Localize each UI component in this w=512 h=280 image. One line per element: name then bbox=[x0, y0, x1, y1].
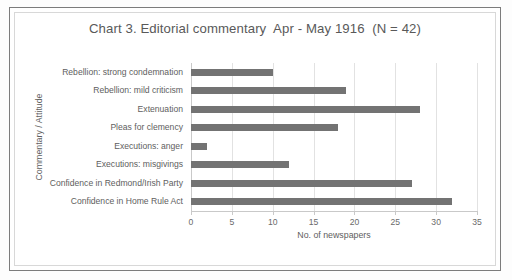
x-tick-mark bbox=[395, 211, 396, 215]
category-label-row: Pleas for clemency bbox=[52, 119, 187, 138]
bar[interactable] bbox=[191, 69, 273, 76]
x-tick-label: 30 bbox=[431, 217, 441, 227]
bar[interactable] bbox=[191, 143, 207, 150]
chart-screenshot: Chart 3. Editorial commentary Apr - May … bbox=[0, 0, 512, 280]
gridline-35 bbox=[477, 63, 478, 211]
bar[interactable] bbox=[191, 198, 452, 205]
chart-title: Chart 3. Editorial commentary Apr - May … bbox=[14, 21, 496, 36]
x-tick-mark bbox=[477, 211, 478, 215]
bar-row[interactable] bbox=[191, 100, 477, 119]
x-axis-title: No. of newspapers bbox=[191, 230, 477, 240]
category-label: Rebellion: mild criticism bbox=[93, 86, 187, 95]
x-axis-ticks: 05101520253035 bbox=[191, 211, 477, 227]
bar-row[interactable] bbox=[191, 174, 477, 193]
x-tick-label: 5 bbox=[229, 217, 234, 227]
x-tick-label: 25 bbox=[391, 217, 401, 227]
x-tick-label: 20 bbox=[350, 217, 360, 227]
x-tick-mark bbox=[232, 211, 233, 215]
x-tick-label: 0 bbox=[189, 217, 194, 227]
bar-row[interactable] bbox=[191, 63, 477, 82]
y-axis-category-labels: Rebellion: strong condemnationRebellion:… bbox=[52, 63, 187, 211]
x-tick-label: 15 bbox=[309, 217, 319, 227]
category-label: Confidence in Redmond/Irish Party bbox=[50, 179, 187, 188]
bar[interactable] bbox=[191, 161, 289, 168]
bar-row[interactable] bbox=[191, 119, 477, 138]
category-label-row: Confidence in Home Rule Act bbox=[52, 193, 187, 212]
category-label-row: Confidence in Redmond/Irish Party bbox=[52, 174, 187, 193]
category-label: Rebellion: strong condemnation bbox=[62, 68, 187, 77]
bar[interactable] bbox=[191, 124, 338, 131]
category-label: Extenuation bbox=[138, 105, 187, 114]
plot-area bbox=[191, 63, 477, 211]
bar[interactable] bbox=[191, 87, 346, 94]
bar-row[interactable] bbox=[191, 193, 477, 212]
x-tick-mark bbox=[191, 211, 192, 215]
bar-row[interactable] bbox=[191, 137, 477, 156]
y-axis-title: Commentary / Attitude bbox=[30, 63, 48, 211]
bar[interactable] bbox=[191, 180, 412, 187]
x-tick-mark bbox=[436, 211, 437, 215]
x-tick-mark bbox=[314, 211, 315, 215]
bar-row[interactable] bbox=[191, 156, 477, 175]
category-label: Pleas for clemency bbox=[110, 123, 187, 132]
bar-series bbox=[191, 63, 477, 211]
category-label-row: Executions: anger bbox=[52, 137, 187, 156]
x-tick-label: 10 bbox=[268, 217, 278, 227]
category-label: Executions: anger bbox=[114, 142, 187, 151]
category-label-row: Extenuation bbox=[52, 100, 187, 119]
x-tick-mark bbox=[273, 211, 274, 215]
x-tick-mark bbox=[354, 211, 355, 215]
category-label: Executions: misgivings bbox=[96, 160, 187, 169]
category-label-row: Rebellion: mild criticism bbox=[52, 82, 187, 101]
category-label: Confidence in Home Rule Act bbox=[71, 197, 187, 206]
category-label-row: Executions: misgivings bbox=[52, 156, 187, 175]
bar[interactable] bbox=[191, 106, 420, 113]
bar-row[interactable] bbox=[191, 82, 477, 101]
category-label-row: Rebellion: strong condemnation bbox=[52, 63, 187, 82]
x-tick-label: 35 bbox=[472, 217, 482, 227]
